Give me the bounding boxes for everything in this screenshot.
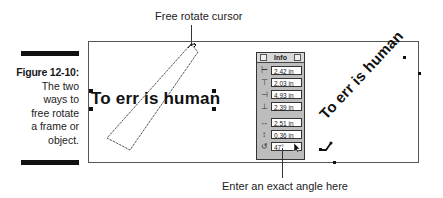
palette-row-width: ↔ 2.51 in <box>259 118 304 128</box>
caption-line: ways to <box>10 93 79 107</box>
callout-free-rotate-cursor: Free rotate cursor <box>155 10 242 22</box>
y-position-icon: ⊤ <box>259 78 269 88</box>
height-icon: ↕ <box>259 130 269 140</box>
zoom-box-icon[interactable] <box>294 54 301 61</box>
palette-row-height: ↕ 0.36 in <box>259 130 304 140</box>
y-position-field[interactable]: 2.03 in <box>271 78 302 87</box>
rotation-angle-icon: ↺ <box>259 142 269 152</box>
text-frame-unrotated[interactable]: To err is human <box>91 89 220 109</box>
figure-number: Figure 12-10: <box>10 66 79 80</box>
rotate-cursor-icon <box>318 140 334 154</box>
selection-handle[interactable] <box>333 161 336 164</box>
caption-line: a frame or <box>10 120 79 134</box>
x-position-icon: ⊢ <box>259 66 269 76</box>
callout-exact-angle: Enter an exact angle here <box>222 180 348 192</box>
caption-line: The two <box>10 80 79 94</box>
bottom-edge-icon: ⊥ <box>259 102 269 112</box>
palette-row-right: ⊣ 4.93 in <box>259 90 304 100</box>
width-icon: ↔ <box>259 118 269 128</box>
palette-row-bottom: ⊥ 2.39 in <box>259 102 304 112</box>
right-edge-field[interactable]: 4.93 in <box>271 90 302 99</box>
figure-caption: Figure 12-10: The two ways to free rotat… <box>10 66 79 147</box>
caption-line: object. <box>10 134 79 148</box>
width-field[interactable]: 2.51 in <box>271 118 302 127</box>
x-position-field[interactable]: 2.42 in <box>271 66 302 75</box>
free-rotate-cursor-icon <box>186 40 198 52</box>
palette-row-x: ⊢ 2.42 in <box>259 66 304 76</box>
caption-line: free rotate <box>10 107 79 121</box>
callout-leader-bottom <box>282 148 283 178</box>
selection-handle[interactable] <box>418 72 421 75</box>
selection-handle[interactable] <box>403 56 406 59</box>
caption-top-rule <box>21 51 79 56</box>
height-field[interactable]: 0.36 in <box>271 130 302 139</box>
caption-bottom-rule <box>21 160 79 165</box>
mouse-pointer-icon <box>293 142 302 154</box>
close-box-icon[interactable] <box>260 54 267 61</box>
right-edge-icon: ⊣ <box>259 90 269 100</box>
palette-title: Info <box>274 54 287 61</box>
palette-title-bar[interactable]: Info <box>257 53 304 63</box>
palette-row-y: ⊤ 2.03 in <box>259 78 304 88</box>
bottom-edge-field[interactable]: 2.39 in <box>271 102 302 111</box>
